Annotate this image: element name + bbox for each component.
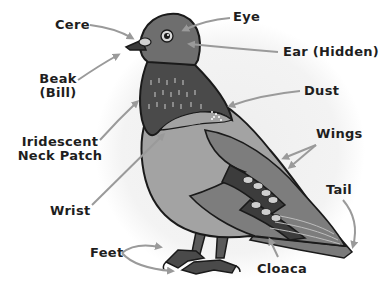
- label-neck-line2: Neck Patch: [16, 149, 104, 163]
- label-wrist: Wrist: [50, 204, 90, 218]
- label-cere: Cere: [55, 18, 90, 32]
- pigeon-anatomy-diagram: Cere Beak (Bill) Iridescent Neck Patch W…: [0, 0, 388, 293]
- label-eye: Eye: [233, 10, 260, 24]
- label-wings: Wings: [316, 127, 363, 141]
- label-neck-line1: Iridescent: [16, 135, 104, 149]
- label-beak: Beak (Bill): [38, 72, 78, 100]
- beak-arrow: [78, 55, 118, 80]
- label-tail: Tail: [326, 183, 352, 197]
- cere-arrow: [90, 25, 132, 38]
- label-cloaca: Cloaca: [257, 262, 307, 276]
- label-beak-line2: (Bill): [38, 86, 78, 100]
- label-ear-hidden: Ear (Hidden): [283, 45, 379, 59]
- label-dust: Dust: [304, 84, 339, 98]
- label-feet: Feet: [90, 246, 123, 260]
- label-beak-line1: Beak: [38, 72, 78, 86]
- label-iridescent-neck-patch: Iridescent Neck Patch: [16, 135, 104, 163]
